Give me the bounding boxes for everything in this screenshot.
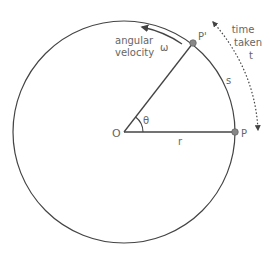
label-radius-r: r — [178, 136, 183, 147]
angular-velocity-diagram: O P P' θ r s ω angular velocity time tak… — [0, 0, 275, 256]
label-theta: θ — [143, 115, 149, 126]
label-velocity: velocity — [115, 47, 154, 58]
label-center-o: O — [112, 127, 121, 140]
point-p-prime-marker — [190, 40, 197, 47]
label-arc-s: s — [226, 75, 231, 86]
angle-arc — [136, 117, 143, 132]
label-point-p-prime: P' — [198, 31, 207, 42]
label-angular: angular — [115, 35, 154, 46]
label-omega: ω — [160, 42, 168, 53]
point-p-marker — [232, 129, 239, 136]
label-time: time — [232, 24, 255, 35]
label-time-t: t — [249, 50, 253, 61]
label-point-p: P — [241, 128, 247, 139]
label-taken: taken — [234, 37, 262, 48]
